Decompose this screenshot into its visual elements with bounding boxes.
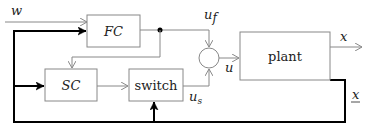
label-x-out: x <box>340 29 348 44</box>
label-w: w <box>11 3 22 18</box>
signal-w: w <box>5 3 87 22</box>
block-sc-label: SC <box>62 78 81 93</box>
block-diagram: w FC uf SC switch us u <box>0 0 368 127</box>
arrow-switch-to-sum <box>183 69 209 86</box>
signal-x-out: x <box>330 29 362 47</box>
block-fc-label: FC <box>103 24 123 39</box>
block-switch: switch <box>129 69 183 101</box>
block-switch-label: switch <box>135 78 178 93</box>
block-fc: FC <box>87 15 140 47</box>
arrow-fc-to-sum <box>140 30 209 47</box>
block-sc: SC <box>45 69 97 101</box>
summing-junction <box>199 48 219 68</box>
label-u: u <box>225 60 233 75</box>
label-uf: uf <box>204 7 219 25</box>
label-x-state: x <box>352 87 360 102</box>
signal-u: u <box>219 58 239 75</box>
block-plant-label: plant <box>268 49 303 64</box>
signal-us: us <box>183 69 209 106</box>
signal-x-state: x <box>351 87 360 102</box>
block-plant: plant <box>240 32 330 80</box>
label-us: us <box>189 89 202 106</box>
